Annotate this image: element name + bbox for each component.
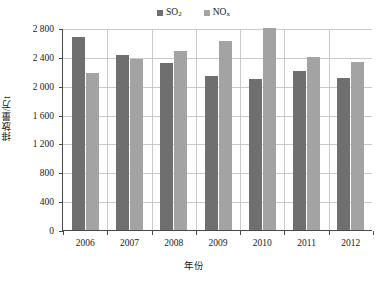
y-axis-tick bbox=[59, 144, 63, 145]
y-axis-tick-label: 2 400 bbox=[2, 53, 54, 63]
x-axis-tick-label: 2008 bbox=[151, 238, 197, 249]
y-gridline bbox=[63, 58, 372, 59]
bar-so2-2006[interactable] bbox=[72, 37, 85, 230]
bar-so2-2008[interactable] bbox=[160, 63, 173, 230]
x-gridline bbox=[107, 29, 108, 230]
x-gridline bbox=[152, 29, 153, 230]
y-gridline bbox=[63, 202, 372, 203]
y-axis-tick-label: 2 800 bbox=[2, 24, 54, 34]
y-axis-tick-label: 0 bbox=[2, 226, 54, 236]
bar-nox-2009[interactable] bbox=[219, 41, 232, 230]
x-gridline bbox=[240, 29, 241, 230]
x-axis-tick bbox=[107, 231, 108, 235]
legend-item-nox[interactable]: NOx bbox=[204, 8, 230, 18]
x-axis-tick-label: 2011 bbox=[284, 238, 330, 249]
legend-swatch-so2 bbox=[157, 10, 163, 16]
bar-nox-2008[interactable] bbox=[174, 51, 187, 230]
x-axis-tick bbox=[152, 231, 153, 235]
x-axis-tick bbox=[329, 231, 330, 235]
x-axis-tick-label: 2009 bbox=[195, 238, 241, 249]
x-axis-tick bbox=[373, 231, 374, 235]
y-gridline bbox=[63, 116, 372, 117]
x-axis-tick bbox=[63, 231, 64, 235]
y-axis-tick-label: 1 600 bbox=[2, 111, 54, 121]
x-axis-tick-label: 2007 bbox=[106, 238, 152, 249]
legend-swatch-nox bbox=[204, 10, 210, 16]
bar-nox-2011[interactable] bbox=[307, 57, 320, 230]
y-axis-tick bbox=[59, 58, 63, 59]
y-axis-tick-label: 2 000 bbox=[2, 82, 54, 92]
y-axis-tick-label: 1 200 bbox=[2, 139, 54, 149]
y-gridline bbox=[63, 29, 372, 30]
bar-so2-2009[interactable] bbox=[205, 76, 218, 230]
bar-nox-2012[interactable] bbox=[351, 62, 364, 230]
bar-so2-2010[interactable] bbox=[249, 79, 262, 230]
chart-legend: SO2 NOx bbox=[0, 5, 387, 21]
bar-so2-2012[interactable] bbox=[337, 78, 350, 230]
x-gridline bbox=[284, 29, 285, 230]
y-gridline bbox=[63, 173, 372, 174]
plot-area: 04008001 2001 6002 0002 4002 80020062007… bbox=[62, 29, 372, 231]
x-axis-tick-label: 2010 bbox=[239, 238, 285, 249]
bar-so2-2011[interactable] bbox=[293, 71, 306, 230]
bar-nox-2006[interactable] bbox=[86, 73, 99, 230]
x-axis-tick-label: 2006 bbox=[62, 238, 108, 249]
y-gridline bbox=[63, 144, 372, 145]
x-axis-title: 年份 bbox=[0, 258, 387, 272]
legend-item-so2[interactable]: SO2 bbox=[157, 8, 182, 18]
y-axis-tick bbox=[59, 116, 63, 117]
y-axis-tick bbox=[59, 87, 63, 88]
y-axis-tick bbox=[59, 173, 63, 174]
x-axis-tick-label: 2012 bbox=[328, 238, 374, 249]
y-axis-tick-label: 400 bbox=[2, 197, 54, 207]
x-gridline bbox=[329, 29, 330, 230]
y-axis-tick bbox=[59, 29, 63, 30]
y-axis-tick bbox=[59, 202, 63, 203]
x-gridline bbox=[196, 29, 197, 230]
y-axis-tick-label: 800 bbox=[2, 168, 54, 178]
bar-chart: SO2 NOx 排放量/万t 04008001 2001 6002 0002 4… bbox=[0, 0, 387, 285]
x-axis-tick bbox=[284, 231, 285, 235]
bar-so2-2007[interactable] bbox=[116, 55, 129, 230]
legend-label-so2: SO2 bbox=[166, 8, 182, 18]
bar-nox-2007[interactable] bbox=[130, 59, 143, 230]
y-gridline bbox=[63, 87, 372, 88]
bar-nox-2010[interactable] bbox=[263, 28, 276, 230]
x-axis-tick bbox=[196, 231, 197, 235]
legend-label-nox: NOx bbox=[213, 8, 230, 18]
x-axis-tick bbox=[240, 231, 241, 235]
